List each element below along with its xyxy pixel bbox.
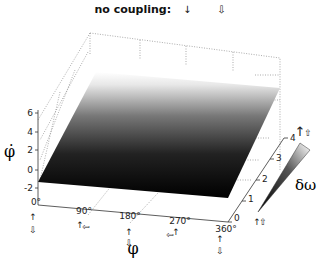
filled-arrow-icon: ↑ [172,227,180,237]
x-tick: 90° [76,206,92,216]
surface-plane [38,72,280,198]
open-arrow-icon: ⇩ [125,238,133,248]
x-tick: 270° [169,216,191,226]
y-tick: 3 [276,153,282,163]
filled-arrow-icon: ↑ [29,212,37,222]
open-arrow-icon: ⇧ [259,217,267,227]
z-axis [35,110,38,205]
open-arrow-icon: ⇩ [29,225,37,235]
z-tick: 0 [27,165,33,175]
x-ticks: 0° 90° 180° 270° 360° [31,197,237,234]
z-ticks: 6 4 2 0 -2 [24,108,33,193]
y-tick: 0 [234,213,240,223]
y-axis-label: δω [295,176,316,194]
open-horizontal-arrow-icon: ⇦ [82,222,90,232]
x-tick: 360° [215,224,237,234]
filled-arrow-icon: ↑ [125,227,133,237]
x-tick: 180° [119,211,141,221]
z-tick: -2 [24,183,33,193]
z-tick: 6 [27,108,33,118]
open-arrow-icon: ⇩ [216,246,224,256]
open-arrow-icon: ⇧ [304,128,312,138]
surface-plot: 6 4 2 0 -2 φ̇ 0° 90° 180° 270° 360° φ ↑ … [0,0,320,269]
z-tick: 2 [27,145,33,155]
z-axis-label: φ̇ [4,142,15,161]
z-tick: 4 [27,127,33,137]
filled-arrow-icon: ↑ [216,234,224,244]
y-tick: 2 [262,174,268,184]
y-tick: 1 [248,194,254,204]
x-tick: 0° [31,197,41,207]
